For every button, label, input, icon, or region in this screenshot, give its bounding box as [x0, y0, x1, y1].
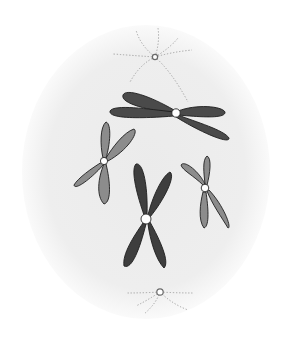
centromere-icon — [172, 109, 180, 117]
cell-division-diagram: Animal cell in prometaphase/metaphase wi… — [0, 0, 291, 347]
cell-body — [22, 25, 270, 319]
centromere-icon — [141, 214, 151, 224]
centrosome-top-icon — [152, 54, 157, 59]
centromere-icon — [100, 157, 107, 164]
centrosome-bottom-icon — [157, 289, 163, 295]
centromere-icon — [201, 184, 209, 192]
diagram-canvas — [0, 0, 291, 347]
